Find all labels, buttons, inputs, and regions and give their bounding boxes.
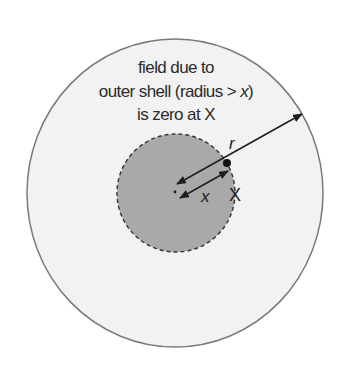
caption-line-2: outer shell (radius > x)	[99, 82, 253, 101]
inner-sphere	[117, 134, 235, 252]
caption-line-3: is zero at X	[137, 105, 215, 124]
caption-line-1: field due to	[138, 58, 214, 77]
center-point	[174, 191, 177, 194]
point-x-marker	[223, 159, 231, 167]
caption-line-2-prefix: outer shell (radius >	[99, 82, 240, 101]
point-x-label: X	[229, 185, 241, 205]
caption-line-2-suffix: )	[248, 82, 253, 101]
inner-radius-label: x	[200, 187, 210, 206]
gravity-shell-diagram: field due to outer shell (radius > x) is…	[0, 0, 345, 369]
